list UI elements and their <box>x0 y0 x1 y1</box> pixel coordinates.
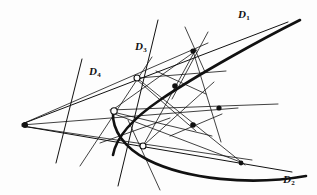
curve-point-t3 <box>140 143 146 149</box>
interior-point-b <box>190 122 196 128</box>
geometry-figure: D1D2D3D4 <box>0 0 317 195</box>
label-d1-subscript: 1 <box>246 14 250 22</box>
label-d1: D1 <box>238 9 250 22</box>
label-d4-subscript: 4 <box>97 71 101 79</box>
label-d3: D3 <box>135 41 147 54</box>
label-d2-subscript: 2 <box>291 179 295 187</box>
label-d2: D2 <box>283 174 295 187</box>
curve-point-t2 <box>111 108 117 114</box>
interior-point-c <box>216 105 221 110</box>
pole-point-left <box>22 122 28 128</box>
interior-point-a <box>172 83 178 89</box>
curve-point-lower-right <box>239 161 244 166</box>
label-d2-base: D <box>283 173 291 185</box>
label-d4-base: D <box>89 65 97 77</box>
label-d3-base: D <box>135 40 143 52</box>
figure-canvas <box>0 0 317 195</box>
label-d1-base: D <box>238 8 246 20</box>
curve-point-upper-right <box>190 48 195 53</box>
label-d4: D4 <box>89 66 101 79</box>
curve-point-t1 <box>134 75 140 81</box>
label-d3-subscript: 3 <box>143 46 147 54</box>
